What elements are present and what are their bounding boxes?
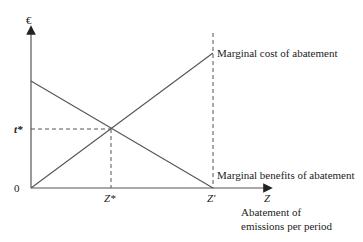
equilibrium-price-label: t* xyxy=(14,123,23,135)
marginal-benefit-label: Marginal benefits of abatement xyxy=(217,169,355,181)
x-axis-label: Z xyxy=(264,192,271,204)
y-axis-label: € xyxy=(26,14,32,26)
origin-label: 0 xyxy=(14,182,20,194)
marginal-cost-curve xyxy=(31,53,213,188)
marginal-cost-label: Marginal cost of abatement xyxy=(217,47,337,59)
abatement-diagram: € 0 t* Z* Z' Z Marginal cost of abatemen… xyxy=(0,0,363,242)
max-abatement-label: Z' xyxy=(207,192,216,204)
marginal-benefit-curve xyxy=(31,81,213,188)
x-axis-title-line2: emissions per period xyxy=(241,220,333,232)
x-axis-title-line1: Abatement of xyxy=(241,206,302,218)
equilibrium-quantity-label: Z* xyxy=(104,192,116,204)
